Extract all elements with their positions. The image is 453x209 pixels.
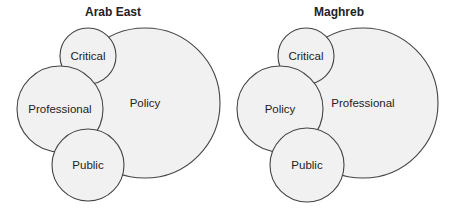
bubble-label: Policy — [130, 97, 161, 109]
bubble-label: Policy — [265, 103, 296, 115]
bubble-label: Public — [291, 159, 323, 171]
bubble-label: Professional — [28, 103, 91, 115]
panel-maghreb: Maghreb ProfessionalCriticalPolicyPublic — [226, 0, 452, 209]
bubble-diagram: ProfessionalCriticalPolicyPublic — [226, 0, 453, 209]
bubble-label: Critical — [70, 50, 105, 62]
panel-arab-east: Arab East PolicyCriticalProfessionalPubl… — [0, 0, 226, 209]
bubble-label: Professional — [331, 97, 394, 109]
bubble-label: Public — [72, 159, 104, 171]
bubble-public: Public — [52, 129, 124, 201]
bubble-diagram: PolicyCriticalProfessionalPublic — [0, 0, 226, 209]
bubble-label: Critical — [288, 50, 323, 62]
bubble-public: Public — [270, 128, 344, 202]
